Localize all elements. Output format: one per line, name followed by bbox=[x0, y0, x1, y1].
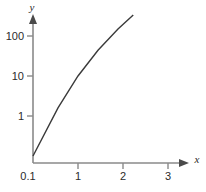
x-tick-label-1: 1 bbox=[75, 170, 81, 182]
x-axis-arrow-icon bbox=[179, 159, 189, 167]
chart-canvas: 1 10 100 0.1 1 2 3 y x bbox=[0, 0, 206, 192]
x-tick-label-3: 3 bbox=[165, 170, 171, 182]
x-axis-label: x bbox=[194, 153, 200, 165]
y-tick-label-1: 1 bbox=[18, 110, 24, 122]
y-tick-label-100: 100 bbox=[6, 30, 24, 42]
x-tick-label-0-1: 0.1 bbox=[20, 170, 35, 182]
data-series-line bbox=[33, 15, 133, 156]
semilog-line-chart: 1 10 100 0.1 1 2 3 y x bbox=[0, 0, 206, 192]
y-axis-label: y bbox=[29, 1, 35, 13]
x-tick-label-2: 2 bbox=[120, 170, 126, 182]
y-axis-arrow-icon bbox=[29, 14, 37, 24]
y-tick-label-10: 10 bbox=[12, 70, 24, 82]
